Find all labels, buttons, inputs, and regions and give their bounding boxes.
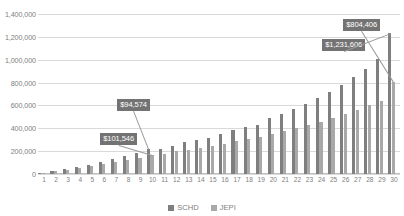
bar-jepi — [175, 151, 178, 174]
bar-group — [267, 14, 279, 174]
bar-group — [352, 14, 364, 174]
bar-group — [328, 14, 340, 174]
bar-group — [50, 14, 62, 174]
bar-jepi — [90, 166, 93, 174]
bar-jepi — [211, 146, 214, 174]
y-axis-tick: 600,000 — [0, 101, 36, 110]
bar-jepi — [150, 155, 153, 174]
bar-group — [98, 14, 110, 174]
data-label: $804,406 — [343, 19, 380, 31]
bar-group — [231, 14, 243, 174]
bar-group — [171, 14, 183, 174]
legend-swatch-schd — [168, 205, 174, 211]
bar-group — [86, 14, 98, 174]
bar-jepi — [295, 128, 298, 174]
bar-jepi — [114, 162, 117, 174]
bar-group — [340, 14, 352, 174]
bar-group — [388, 14, 400, 174]
bar-group — [243, 14, 255, 174]
bar-jepi — [138, 158, 141, 174]
bar-jepi — [126, 160, 129, 174]
bar-group — [110, 14, 122, 174]
chart-legend: SCHD JEPI — [0, 203, 404, 212]
bars-layer — [38, 14, 400, 174]
bar-jepi — [199, 148, 202, 174]
bar-jepi — [235, 141, 238, 174]
legend-item-jepi: JEPI — [211, 203, 236, 212]
bar-jepi — [102, 164, 105, 174]
bar-group — [207, 14, 219, 174]
bar-group — [183, 14, 195, 174]
bar-jepi — [259, 137, 262, 174]
bar-group — [219, 14, 231, 174]
bar-jepi — [368, 105, 371, 174]
y-axis-tick: 1,200,000 — [0, 32, 36, 41]
bar-group — [195, 14, 207, 174]
bar-group — [147, 14, 159, 174]
bar-jepi — [42, 173, 45, 174]
y-axis-tick: 1,400,000 — [0, 10, 36, 19]
legend-item-schd: SCHD — [168, 203, 199, 212]
bar-jepi — [247, 139, 250, 174]
bar-group — [316, 14, 328, 174]
x-axis-tick: 30 — [387, 176, 401, 183]
bar-group — [303, 14, 315, 174]
bar-jepi — [392, 82, 395, 174]
bar-group — [62, 14, 74, 174]
data-label: $101,546 — [100, 133, 137, 145]
bar-jepi — [54, 171, 57, 174]
bar-jepi — [307, 125, 310, 174]
bar-jepi — [319, 122, 322, 174]
legend-swatch-jepi — [211, 205, 217, 211]
bar-jepi — [66, 170, 69, 174]
bar-group — [255, 14, 267, 174]
bar-group — [291, 14, 303, 174]
bar-chart: 0200,000400,000600,000800,0001,000,0001,… — [0, 0, 404, 216]
plot-area — [38, 14, 400, 174]
gridline — [38, 174, 400, 175]
bar-group — [38, 14, 50, 174]
y-axis-tick: 800,000 — [0, 78, 36, 87]
bar-jepi — [78, 168, 81, 174]
bar-jepi — [344, 114, 347, 174]
y-axis-tick: 1,000,000 — [0, 55, 36, 64]
y-axis-tick: 200,000 — [0, 147, 36, 156]
bar-jepi — [356, 110, 359, 174]
bar-jepi — [380, 101, 383, 174]
bar-jepi — [271, 134, 274, 174]
bar-jepi — [163, 154, 166, 174]
bar-group — [279, 14, 291, 174]
bar-jepi — [223, 144, 226, 174]
bar-group — [74, 14, 86, 174]
legend-label-jepi: JEPI — [220, 203, 236, 212]
y-axis-tick: 0 — [0, 170, 36, 179]
bar-group — [159, 14, 171, 174]
bar-jepi — [283, 131, 286, 174]
y-axis-tick: 400,000 — [0, 124, 36, 133]
bar-jepi — [331, 118, 334, 174]
data-label: $94,574 — [117, 99, 150, 111]
legend-label-schd: SCHD — [177, 203, 199, 212]
bar-jepi — [187, 150, 190, 174]
